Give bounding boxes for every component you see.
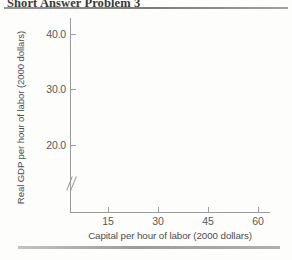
y-tick-label-text: 30.0	[22, 83, 66, 95]
y-tick-label-text: 20.0	[22, 139, 66, 151]
x-axis-title: Capital per hour of labor (2000 dollars)	[56, 230, 284, 241]
y-tick-mark	[71, 89, 76, 90]
x-tick-mark	[208, 207, 209, 212]
y-tick-label-1: 30.0	[22, 83, 66, 95]
plot-area	[71, 18, 270, 211]
y-tick-label-text: 40.0	[22, 28, 66, 40]
y-tick-label-0: 40.0	[22, 28, 66, 40]
footer-divider	[18, 246, 280, 249]
x-tick-label-1: 30	[138, 215, 178, 227]
chart-page: Short Answer Problem 3 40.0 30.0 20.0 15…	[0, 0, 292, 260]
y-tick-mark	[71, 145, 76, 146]
blank-graph-chart: 40.0 30.0 20.0 15 30 45 60 Real GDP per …	[0, 0, 292, 260]
x-tick-label-2: 45	[188, 215, 228, 227]
y-tick-label-2: 20.0	[22, 139, 66, 151]
x-axis-line	[70, 212, 270, 213]
y-tick-mark	[71, 34, 76, 35]
x-tick-mark	[258, 207, 259, 212]
x-tick-label-0: 15	[88, 215, 128, 227]
x-tick-mark	[158, 207, 159, 212]
axis-break-icon	[64, 176, 78, 192]
y-axis-title: Real GDP per hour of labor (2000 dollars…	[15, 21, 26, 215]
x-tick-label-3: 60	[238, 215, 278, 227]
x-tick-mark	[108, 207, 109, 212]
